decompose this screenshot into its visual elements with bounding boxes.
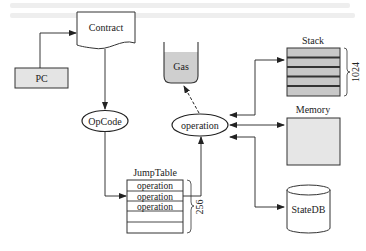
stack-size-label: 1024 <box>350 62 361 82</box>
edge-operation-stack <box>230 60 284 115</box>
opcode-node: OpCode <box>82 111 128 132</box>
evm-architecture-diagram: PC Contract OpCode Gas operation <box>0 0 366 251</box>
edge-operation-gas <box>184 86 199 113</box>
gas-label: Gas <box>173 61 189 72</box>
edge-jumptable-operation <box>183 137 201 196</box>
operation-node: operation <box>172 114 228 136</box>
contract-node: Contract <box>77 12 135 49</box>
edge-pc-contract <box>40 33 76 68</box>
memory-node: Memory <box>287 104 340 165</box>
memory-title: Memory <box>296 104 330 115</box>
opcode-label: OpCode <box>88 116 122 127</box>
contract-label: Contract <box>89 22 124 33</box>
jumptable-node: JumpTable operation operation operation … <box>127 167 205 233</box>
jumptable-title: JumpTable <box>133 167 177 178</box>
pc-node: PC <box>15 68 68 88</box>
stack-node: Stack 1024 <box>287 35 361 96</box>
edge-opcode-jumptable <box>105 132 126 197</box>
jumptable-row: operation <box>137 202 173 212</box>
jumptable-row: operation <box>137 192 173 202</box>
statedb-label: StateDB <box>292 204 326 215</box>
edge-operation-statedb <box>230 137 284 207</box>
jumptable-size-label: 256 <box>194 200 205 215</box>
stack-title: Stack <box>302 35 324 46</box>
jumptable-row: operation <box>137 181 173 191</box>
pc-label: PC <box>35 73 48 84</box>
gas-node: Gas <box>164 42 198 83</box>
operation-label: operation <box>181 120 219 131</box>
statedb-node: StateDB <box>287 185 330 233</box>
jumptable-brace <box>187 180 194 233</box>
